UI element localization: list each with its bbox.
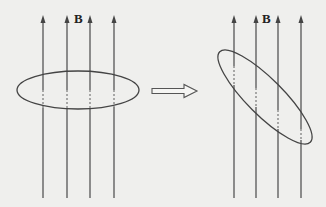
field-label-b: B [262,11,271,26]
arrow-up-icon [299,15,304,23]
field-line [232,15,237,198]
field-line [299,15,304,198]
arrow-up-icon [254,15,259,23]
flux-loop-diagram: B [0,0,326,207]
arrow-up-icon [88,15,93,23]
field-line [65,15,70,198]
field-line [254,15,259,198]
arrow-up-icon [112,15,117,23]
field-label-b: B [74,11,83,26]
field-lines [232,15,304,198]
current-loop [17,71,139,109]
arrow-up-icon [65,15,70,23]
field-line [112,15,117,198]
field-line [88,15,93,198]
field-line [276,15,281,198]
transition-arrow [152,85,197,98]
arrow-up-icon [232,15,237,23]
panel-rotated: B [207,11,323,198]
panel-initial: B [17,11,139,198]
current-loop-tilted [207,39,323,155]
arrow-up-icon [41,15,46,23]
hollow-right-arrow-icon [152,85,197,98]
arrow-up-icon [276,15,281,23]
